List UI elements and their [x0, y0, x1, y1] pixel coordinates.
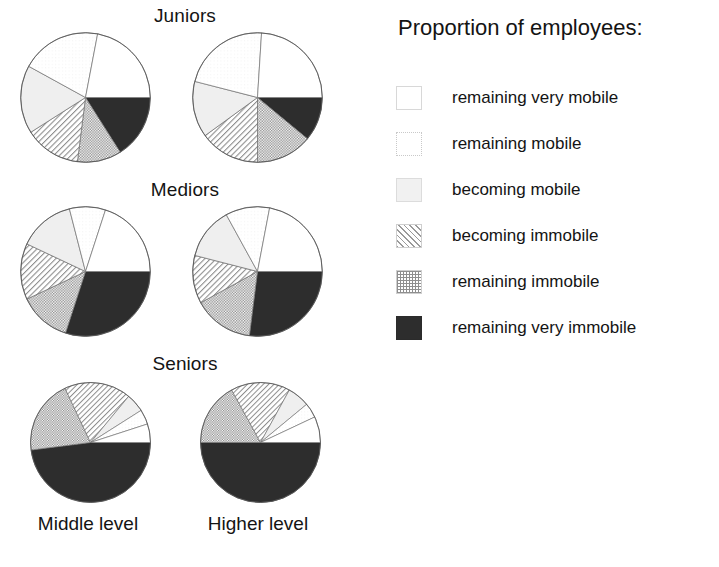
pie-grid: Juniors: [0, 0, 370, 567]
legend-swatch-icon: [396, 316, 422, 340]
legend-item-remaining-very-immobile: remaining very immobile: [396, 316, 716, 340]
legend-swatch-icon: [396, 224, 422, 248]
legend-title: Proportion of employees:: [398, 14, 716, 42]
pie-mediors-middle: [18, 204, 153, 339]
pie-slice: [31, 443, 151, 503]
legend-swatch-icon: [396, 132, 422, 156]
legend-item-label: remaining very immobile: [452, 317, 636, 339]
legend-item-becoming-mobile: becoming mobile: [396, 178, 716, 202]
legend-swatch-icon: [396, 86, 422, 110]
pie-seniors-higher: [198, 380, 323, 505]
pie-svg: [18, 204, 153, 339]
legend-swatch-icon: [396, 270, 422, 294]
column-label-middle-level: Middle level: [8, 512, 168, 536]
row-title-seniors: Seniors: [0, 352, 370, 376]
row-title-juniors: Juniors: [0, 4, 370, 28]
pie-row-juniors: Juniors: [0, 4, 370, 179]
pie-juniors-middle: [18, 30, 153, 165]
pie-seniors-middle: [28, 380, 153, 505]
pie-svg: [18, 30, 153, 165]
pie-row-mediors: Mediors: [0, 178, 370, 353]
pie-svg: [190, 204, 325, 339]
pie-slice: [201, 443, 321, 503]
legend-item-remaining-mobile: remaining mobile: [396, 132, 716, 156]
pie-row-seniors: Seniors: [0, 352, 370, 527]
pie-svg: [28, 380, 153, 505]
column-label-higher-level: Higher level: [178, 512, 338, 536]
legend-item-label: becoming immobile: [452, 225, 598, 247]
legend-item-label: remaining mobile: [452, 133, 581, 155]
legend-list: remaining very mobile remaining mobile b…: [396, 86, 716, 340]
legend-item-label: remaining immobile: [452, 271, 599, 293]
row-title-mediors: Mediors: [0, 178, 370, 202]
legend: Proportion of employees: remaining very …: [396, 14, 716, 362]
legend-item-label: remaining very mobile: [452, 87, 618, 109]
legend-item-becoming-immobile: becoming immobile: [396, 224, 716, 248]
pie-svg: [198, 380, 323, 505]
pie-svg: [190, 30, 325, 165]
legend-item-remaining-very-mobile: remaining very mobile: [396, 86, 716, 110]
pie-mediors-higher: [190, 204, 325, 339]
legend-swatch-icon: [396, 178, 422, 202]
pie-slice: [249, 272, 322, 337]
pie-slice: [258, 33, 323, 98]
legend-item-remaining-immobile: remaining immobile: [396, 270, 716, 294]
figure-canvas: Juniors: [0, 0, 719, 567]
legend-item-label: becoming mobile: [452, 179, 581, 201]
pie-juniors-higher: [190, 30, 325, 165]
